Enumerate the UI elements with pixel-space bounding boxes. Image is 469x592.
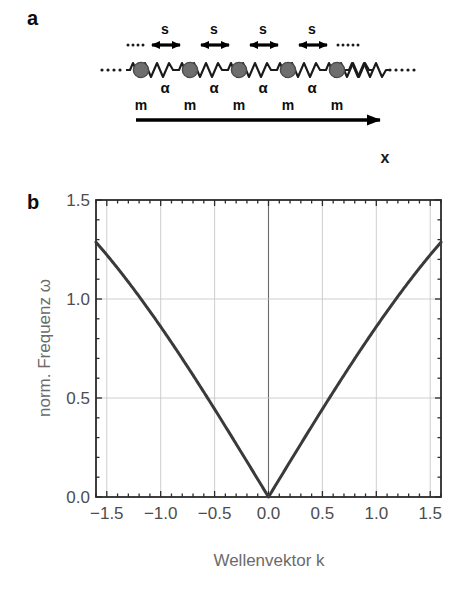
mass-label-2: m: [184, 98, 196, 112]
spring-constant-label-1: α: [160, 80, 169, 95]
panel-a-chain-schematic: a: [0, 0, 469, 180]
x-tick-label: −1.0: [144, 505, 178, 522]
chain-x-axis-label: x: [381, 150, 390, 166]
ellipsis-chain-left: [100, 68, 121, 71]
spring-constant-label-2: α: [209, 80, 218, 95]
spring-constant-label-3: α: [258, 80, 267, 95]
y-tick-label: 1.0: [48, 291, 90, 308]
mass-label-3: m: [233, 98, 245, 112]
dispersion-plot-svg: [0, 180, 469, 592]
ellipsis-chain-right: [388, 68, 415, 71]
spacing-label-s-4: s: [308, 22, 316, 36]
y-tick-label: 0.0: [48, 489, 90, 506]
x-tick-label: 1.5: [418, 505, 442, 522]
spacing-label-s-2: s: [210, 22, 218, 36]
panel-b-dispersion-plot: b −1.5−1.0−0.50.00.51.01.5 0.00.51.01.5 …: [0, 180, 469, 592]
grid-layer: [96, 200, 441, 497]
spring-constant-label-4: α: [307, 80, 316, 95]
chain-diagram-svg: [0, 0, 469, 180]
y-tick-label: 1.5: [48, 192, 90, 209]
y-axis-title: norm. Frequenz ω: [36, 279, 53, 417]
x-tick-label: 0.5: [311, 505, 335, 522]
x-axis-title: Wellenvektor k: [213, 552, 324, 569]
spacing-label-s-3: s: [259, 22, 267, 36]
mass-label-4: m: [282, 98, 294, 112]
ellipsis-arrowrow-right: [337, 44, 360, 47]
y-tick-label: 0.5: [48, 390, 90, 407]
spring-coil: [126, 63, 390, 77]
mass-label-1: m: [135, 98, 147, 112]
x-tick-label: −0.5: [198, 505, 232, 522]
mass-label-5: m: [331, 98, 343, 112]
spacing-label-s-1: s: [161, 22, 169, 36]
x-tick-label: 0.0: [257, 505, 281, 522]
x-tick-label: −1.5: [90, 505, 124, 522]
figure-root: a: [0, 0, 469, 592]
x-tick-label: 1.0: [364, 505, 388, 522]
ellipsis-arrowrow-left: [127, 44, 145, 47]
